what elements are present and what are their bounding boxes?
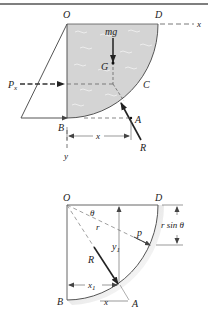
p-arrow: [134, 237, 150, 245]
label-y1: y1: [111, 241, 120, 254]
label-B: B: [58, 122, 64, 133]
point-A: [130, 117, 132, 119]
label-B: B: [57, 296, 63, 307]
R-extension: [120, 285, 129, 300]
label-D: D: [154, 192, 163, 203]
R-arrow: [94, 247, 118, 284]
label-mg: mg: [105, 26, 117, 37]
label-A: A: [131, 298, 139, 309]
label-Px: Px: [7, 79, 18, 92]
label-x-axis: x: [196, 19, 201, 29]
label-R: R: [87, 254, 94, 265]
arc-shading: [67, 205, 164, 305]
label-A: A: [134, 114, 142, 125]
top-figure: O D x y mg G C Px B A x R: [7, 9, 201, 161]
label-G: G: [101, 61, 108, 72]
center-of-mass-dot: [112, 62, 115, 65]
label-R: R: [139, 142, 146, 153]
label-r: r: [96, 222, 100, 232]
label-p: p: [136, 227, 142, 238]
label-theta: θ: [90, 208, 95, 218]
label-C: C: [143, 79, 150, 90]
label-x-dimension: x: [95, 131, 100, 141]
slant-line: [21, 24, 67, 118]
label-x1: x1: [87, 280, 96, 292]
label-D: D: [154, 9, 163, 20]
label-x: x: [103, 297, 108, 307]
label-y-axis: y: [63, 151, 68, 161]
label-r-sin-theta: r sin θ: [161, 220, 185, 230]
arc-surface: [67, 205, 158, 300]
label-O: O: [63, 9, 70, 20]
label-O: O: [63, 192, 70, 203]
bottom-figure: O D θ r p r sin θ y1 R x1 B x A: [57, 192, 185, 309]
diagram-canvas: O D x y mg G C Px B A x R: [0, 0, 208, 311]
